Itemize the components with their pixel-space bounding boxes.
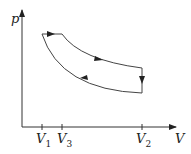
arrow-down-icon xyxy=(139,76,145,84)
tick-label-v1: V1 xyxy=(36,132,51,149)
y-axis-label: p xyxy=(11,12,19,25)
arrow-top-icon xyxy=(47,31,55,37)
arrow-upper-curve-icon xyxy=(94,56,103,61)
x-axis-label: V xyxy=(175,132,184,145)
pv-diagram xyxy=(0,0,191,154)
tick-label-v3: V3 xyxy=(57,132,72,149)
tick-label-v2: V2 xyxy=(136,132,151,149)
cycle-path xyxy=(42,34,142,93)
